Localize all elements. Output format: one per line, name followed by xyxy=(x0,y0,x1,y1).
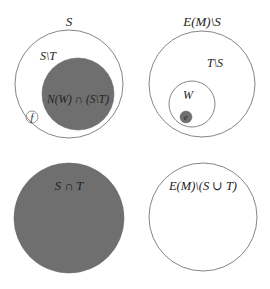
label-s-intersect-t: S ∩ T xyxy=(55,179,85,193)
label-n-w-intersect: N(W) ∩ (S\T) xyxy=(46,93,109,106)
circle-e-minus-s xyxy=(149,31,255,137)
panel-s-intersect-t: S ∩ T xyxy=(14,163,124,273)
label-w: W xyxy=(183,88,194,102)
label-f: f xyxy=(31,112,35,123)
label-e-minus-s: E(M)\S xyxy=(182,14,221,29)
label-t-minus-s: T\S xyxy=(207,56,223,70)
panel-e-minus-s: E(M)\S T\S W e xyxy=(149,14,255,137)
set-diagram: S S\T N(W) ∩ (S\T) f E(M)\S T\S W e S ∩ … xyxy=(0,0,270,289)
panel-e-minus-s-union-t: E(M)\(S ∪ T) xyxy=(149,163,257,271)
label-s: S xyxy=(66,14,73,29)
label-s-minus-t: S\T xyxy=(40,49,57,63)
panel-s: S S\T N(W) ∩ (S\T) f xyxy=(15,14,123,138)
label-e: e xyxy=(184,112,188,122)
label-e-minus-s-union-t: E(M)\(S ∪ T) xyxy=(168,179,237,193)
